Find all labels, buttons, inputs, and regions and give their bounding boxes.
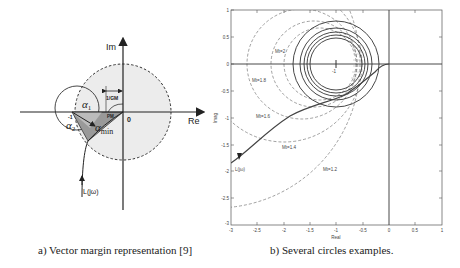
y-tick: 1 <box>226 8 229 13</box>
x-tick: -2.5 <box>253 228 261 233</box>
caption-panel-b: b) Several circles examples. <box>270 244 393 256</box>
alpha2-label: α2 <box>66 119 76 133</box>
y-tick: -1 <box>225 116 229 121</box>
mt-label-2: Mt=2 <box>275 49 286 54</box>
gm-label: 1/GM <box>106 95 118 101</box>
x-tick: 0.5 <box>412 228 419 233</box>
nyquist-curve-label: L(jω) <box>83 188 99 196</box>
figure-canvas: Im Re 0 -1 1/GM PM α1 α2 αmin L(jω) <box>0 0 460 268</box>
im-axis-label: Im <box>106 42 116 52</box>
panel-a-vector-margin <box>20 39 203 210</box>
x-tick: -0.5 <box>359 228 367 233</box>
mt-label-1.4: Mt=1.4 <box>282 145 296 150</box>
x-tick-labels: -3 -2.5 -2 -1.5 -1 -0.5 0 0.5 1 <box>229 228 444 233</box>
caption-panel-a: a) Vector margin representation [9] <box>38 244 192 256</box>
x-tick: 0 <box>388 228 391 233</box>
pm-label: PM <box>107 114 114 119</box>
y-tick: -2 <box>225 169 229 174</box>
y-tick: -3 <box>225 221 229 226</box>
y-tick: 0 <box>226 62 229 67</box>
mt-label-1.8: Mt=1.8 <box>252 78 266 83</box>
mt-label-1.2: Mt=1.2 <box>323 167 337 172</box>
y-axis-label: Imag <box>213 113 218 124</box>
re-axis-label: Re <box>188 116 200 126</box>
origin-label: 0 <box>127 116 131 123</box>
y-tick: -1.5 <box>221 143 229 148</box>
y-tick: 0.5 <box>223 35 230 40</box>
x-tick: -1 <box>334 228 338 233</box>
mt-label-1.6: Mt=1.6 <box>256 114 270 119</box>
center-label: -1 <box>332 69 336 74</box>
x-tick: 1 <box>441 228 444 233</box>
y-tick-labels: 1 0.5 0 -0.5 -1 -1.5 -2 -2.5 -3 <box>221 8 229 226</box>
x-axis-label: Real <box>331 235 340 240</box>
y-tick: -0.5 <box>221 89 229 94</box>
x-tick: -3 <box>229 228 233 233</box>
x-tick: -2 <box>282 228 286 233</box>
nyquist-curve-label-b: L(jω) <box>235 167 246 172</box>
y-tick: -2.5 <box>221 196 229 201</box>
x-tick: -1.5 <box>306 228 314 233</box>
